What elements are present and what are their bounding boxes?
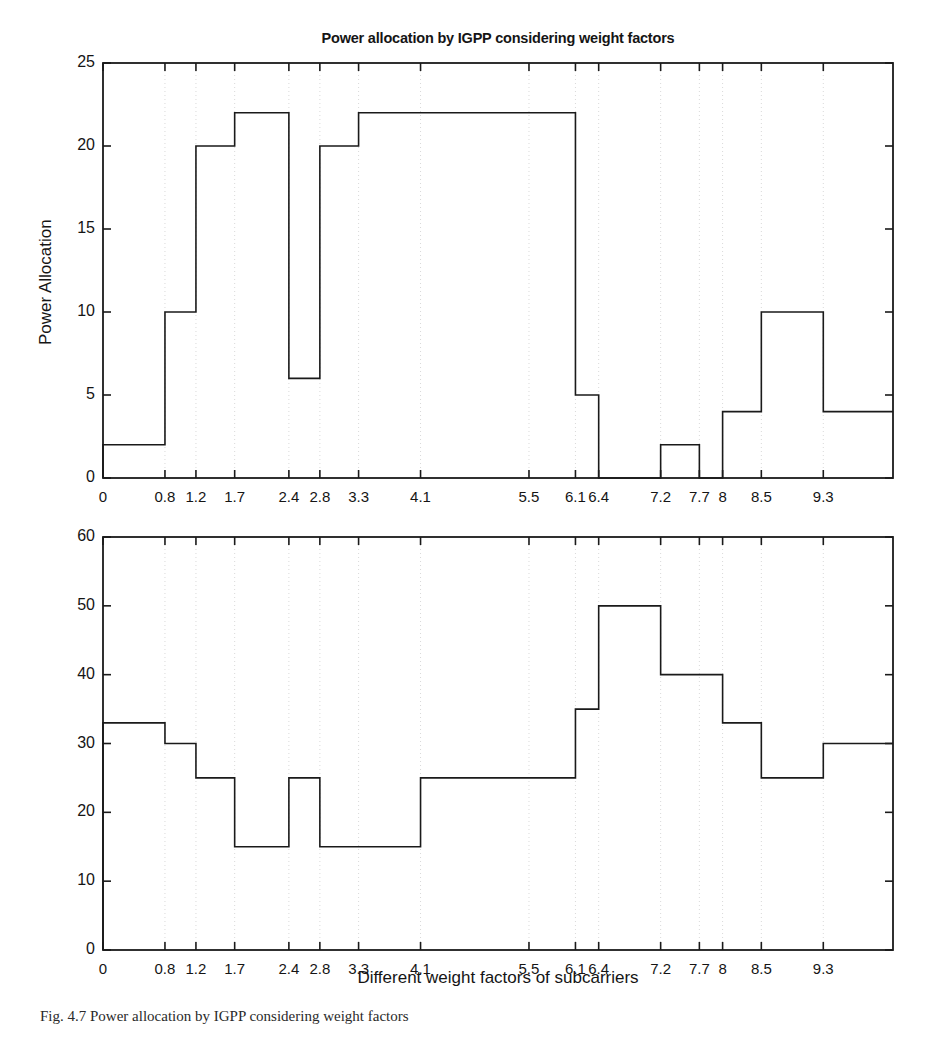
y-tick-label: 40	[51, 665, 95, 683]
x-tick-label: 3.3	[334, 488, 384, 505]
series-outline	[103, 606, 893, 950]
y-tick-label: 30	[51, 734, 95, 752]
plot-area-noise-power	[0, 505, 935, 1005]
y-tick-label: 25	[51, 53, 95, 71]
y-tick-label: 60	[51, 527, 95, 545]
x-tick-label: 9.3	[798, 488, 848, 505]
y-tick-label: 15	[51, 219, 95, 237]
figure-caption: Fig. 4.7 Power allocation by IGPP consid…	[40, 1008, 740, 1025]
chart-panel-noise-power: Noise Power 010203040506000.81.21.72.42.…	[0, 505, 935, 1005]
x-axis-label: Different weight factors of subcarriers	[103, 968, 893, 988]
y-tick-label: 20	[51, 136, 95, 154]
x-tick-label: 5.5	[504, 488, 554, 505]
y-tick-label: 0	[51, 468, 95, 486]
chart-panel-power-allocation: Power allocation by IGPP considering wei…	[0, 0, 935, 505]
y-tick-label: 50	[51, 596, 95, 614]
series-outline	[103, 113, 893, 478]
y-tick-label: 10	[51, 871, 95, 889]
y-tick-label: 10	[51, 302, 95, 320]
y-tick-label: 20	[51, 802, 95, 820]
y-tick-label: 5	[51, 385, 95, 403]
x-tick-label: 6.4	[574, 488, 624, 505]
x-tick-label: 1.7	[210, 488, 260, 505]
plot-area-power-allocation	[0, 0, 935, 505]
x-tick-label: 8.5	[736, 488, 786, 505]
x-tick-label: 4.1	[396, 488, 446, 505]
y-tick-label: 0	[51, 940, 95, 958]
x-tick-label: 0	[78, 488, 128, 505]
figure-power-allocation: Power allocation by IGPP considering wei…	[0, 0, 935, 1042]
